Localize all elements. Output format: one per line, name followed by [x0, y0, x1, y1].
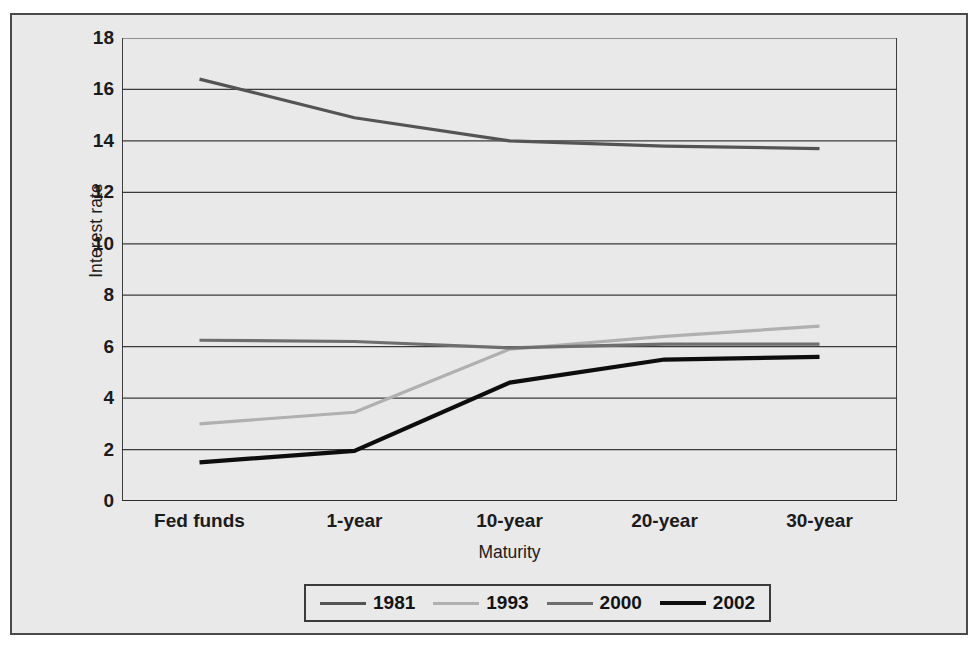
- legend-item-1981[interactable]: 1981: [320, 592, 415, 614]
- x-axis-tick-labels: Fed funds1-year10-year20-year30-year: [122, 510, 897, 536]
- line-chart-svg: [122, 38, 897, 501]
- y-tick-label: 14: [72, 130, 114, 152]
- x-tick-label-20-year: 20-year: [580, 510, 750, 532]
- cut-off-caption-text: [26, 0, 726, 5]
- legend-item-2000[interactable]: 2000: [547, 592, 642, 614]
- y-tick-label: 6: [72, 336, 114, 358]
- legend-label: 2000: [600, 592, 642, 614]
- legend-label: 2002: [713, 592, 755, 614]
- x-axis-title: Maturity: [122, 542, 897, 563]
- legend-label: 1993: [486, 592, 528, 614]
- y-tick-label: 16: [72, 78, 114, 100]
- legend-swatch-1993: [433, 602, 479, 605]
- x-tick-label-1-year: 1-year: [270, 510, 440, 532]
- axes: [122, 38, 897, 501]
- y-tick-label: 0: [72, 490, 114, 512]
- y-tick-label: 12: [72, 181, 114, 203]
- x-tick-label-fed-funds: Fed funds: [115, 510, 285, 532]
- y-tick-label: 4: [72, 387, 114, 409]
- y-tick-label: 8: [72, 284, 114, 306]
- x-tick-label-30-year: 30-year: [735, 510, 905, 532]
- legend-swatch-2002: [660, 601, 706, 605]
- legend-swatch-2000: [547, 602, 593, 605]
- y-tick-label: 18: [72, 27, 114, 49]
- y-axis-tick-labels: 181614121086420: [62, 38, 114, 501]
- series-lines: [200, 79, 820, 462]
- y-tick-label: 2: [72, 439, 114, 461]
- plot-area: [122, 38, 897, 501]
- legend-label: 1981: [373, 592, 415, 614]
- x-tick-label-10-year: 10-year: [425, 510, 595, 532]
- chart-legend: 1981199320002002: [304, 584, 771, 622]
- chart-figure-frame: Interest rate 181614121086420 Fed funds1…: [10, 13, 968, 635]
- legend-item-2002[interactable]: 2002: [660, 592, 755, 614]
- y-tick-label: 10: [72, 233, 114, 255]
- series-line-2002: [200, 357, 820, 462]
- legend-item-1993[interactable]: 1993: [433, 592, 528, 614]
- legend-swatch-1981: [320, 602, 366, 605]
- gridlines: [122, 38, 897, 501]
